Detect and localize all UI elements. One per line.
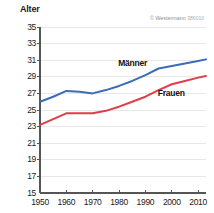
y-axis-tick-label: 21 (14, 138, 36, 148)
y-axis-tick-label: 17 (14, 171, 36, 181)
y-axis-tick-label: 15 (14, 188, 36, 198)
y-axis-tick-label: 25 (14, 105, 36, 115)
gridline-group (40, 27, 206, 176)
x-axis-tick-label: 2010 (181, 197, 214, 207)
y-axis-tick-label: 29 (14, 71, 36, 81)
y-axis-tick-label: 19 (14, 154, 36, 164)
y-axis-tick-label: 33 (14, 38, 36, 48)
y-axis-tick-label: 27 (14, 88, 36, 98)
series-label-frauen: Frauen (158, 88, 185, 98)
series-label-maenner: Männer (118, 58, 147, 68)
y-axis-tick-label: 31 (14, 55, 36, 65)
y-axis-tick-label: 35 (14, 22, 36, 32)
age-at-marriage-line-chart: Alter © Westermann 386010 35333129272523… (0, 0, 214, 213)
series-line-frauen (40, 76, 206, 125)
y-axis-tick-label: 23 (14, 121, 36, 131)
